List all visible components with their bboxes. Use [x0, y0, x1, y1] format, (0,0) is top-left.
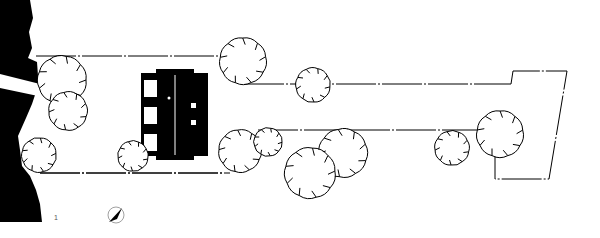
- site-plan-drawing: [0, 0, 600, 238]
- window: [144, 107, 157, 124]
- skylight: [191, 120, 196, 125]
- skylight: [191, 103, 196, 108]
- north-arrow-icon: [108, 207, 124, 223]
- window: [144, 80, 157, 97]
- house-building: [141, 69, 208, 160]
- sheet-number: 1: [54, 214, 58, 221]
- trees: [21, 38, 523, 199]
- woodland-terrain: [0, 0, 42, 222]
